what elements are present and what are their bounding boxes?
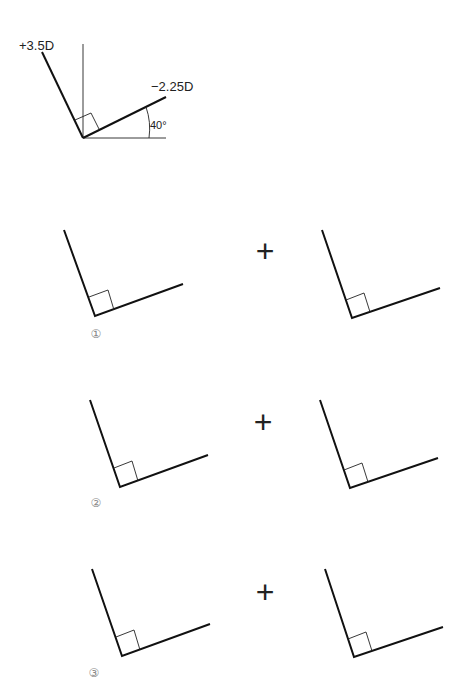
option-number: ① — [91, 327, 102, 341]
plus-sign: + — [254, 404, 273, 440]
option-1-left-figure — [64, 230, 183, 316]
minus-meridian-line — [83, 97, 166, 138]
option-2-left-figure — [90, 400, 208, 487]
option-2-right-figure — [320, 400, 438, 488]
option-3-left-figure — [92, 569, 210, 656]
option-1-right-figure — [322, 230, 440, 318]
option-2[interactable]: + ② — [90, 400, 438, 510]
plus-sign: + — [256, 574, 275, 610]
plus-meridian-line — [42, 52, 83, 138]
diagram-canvas: +3.5D −2.25D 40° + ① + ② — [0, 0, 470, 699]
plus-power-label: +3.5D — [19, 38, 54, 53]
plus-sign: + — [256, 233, 275, 269]
option-number: ③ — [89, 666, 100, 680]
option-1[interactable]: + ① — [64, 230, 440, 341]
minus-power-label: −2.25D — [151, 79, 193, 94]
option-number: ② — [91, 496, 102, 510]
reference-diagram: +3.5D −2.25D 40° — [19, 38, 193, 138]
option-3-right-figure — [325, 569, 443, 657]
angle-label: 40° — [150, 119, 167, 131]
option-3[interactable]: + ③ — [89, 569, 443, 680]
